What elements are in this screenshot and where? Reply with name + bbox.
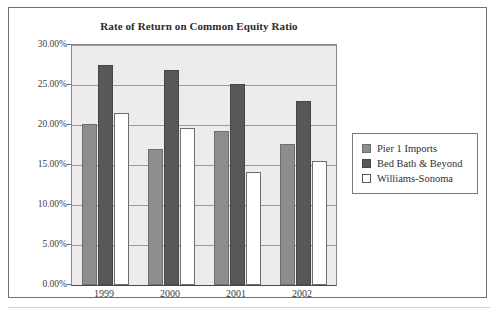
legend-item: Pier 1 Imports [362, 141, 469, 156]
legend-item-label: Bed Bath & Beyond [377, 158, 462, 169]
y-axis-tick-label: 15.00% [13, 159, 67, 169]
x-axis-tick-label: 2002 [272, 288, 332, 299]
bar [98, 65, 113, 285]
legend-swatch-icon [362, 144, 371, 153]
bar [246, 172, 261, 285]
y-axis-tick-label: 25.00% [13, 79, 67, 89]
bar [114, 113, 129, 285]
bar [296, 101, 311, 285]
x-axis-tick-label: 2000 [140, 288, 200, 299]
chart-screenshot: Rate of Return on Common Equity Ratio 0.… [0, 0, 500, 316]
bar [312, 161, 327, 285]
bar-group [72, 45, 138, 285]
legend-swatch-icon [362, 174, 371, 183]
x-axis: 1999200020012002 [71, 288, 337, 304]
legend-swatch-icon [362, 159, 371, 168]
y-axis-tick-label: 0.00% [13, 279, 67, 289]
legend-item: Williams-Sonoma [362, 171, 469, 186]
plot-area [71, 44, 337, 286]
bar [148, 149, 163, 285]
legend-item-label: Pier 1 Imports [377, 143, 437, 154]
y-axis-tick-label: 20.00% [13, 119, 67, 129]
y-axis-tick-label: 5.00% [13, 239, 67, 249]
figure-frame: Rate of Return on Common Equity Ratio 0.… [8, 7, 487, 298]
y-axis-tick-label: 10.00% [13, 199, 67, 209]
y-axis: 0.00%5.00%10.00%15.00%20.00%25.00%30.00% [9, 44, 67, 285]
bar [230, 84, 245, 285]
bar [180, 128, 195, 285]
bar-group [204, 45, 270, 285]
legend-item: Bed Bath & Beyond [362, 156, 469, 171]
y-axis-tick-label: 30.00% [13, 39, 67, 49]
x-axis-tick-label: 2001 [206, 288, 266, 299]
bar [164, 70, 179, 285]
bar [82, 124, 97, 285]
bar [214, 131, 229, 285]
bar-group [270, 45, 336, 285]
chart-title: Rate of Return on Common Equity Ratio [49, 20, 349, 32]
bar-group [138, 45, 204, 285]
x-axis-tick-label: 1999 [74, 288, 134, 299]
page-bottom-rule [8, 307, 490, 308]
legend-item-label: Williams-Sonoma [377, 173, 453, 184]
bar [280, 144, 295, 285]
chart-legend: Pier 1 ImportsBed Bath & BeyondWilliams-… [352, 133, 478, 194]
